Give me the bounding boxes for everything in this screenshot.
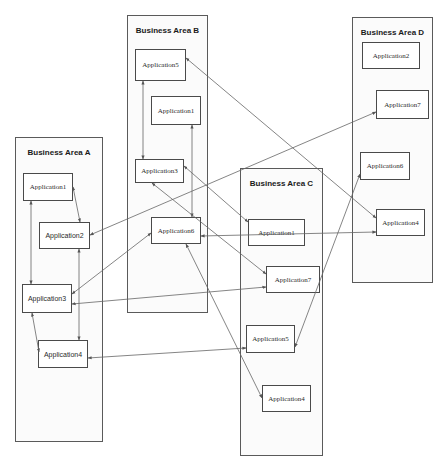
app-c-application5[interactable]: Application5 <box>246 325 295 353</box>
app-b-application5[interactable]: Application5 <box>135 49 186 81</box>
business-area-c: Business Area C <box>240 168 323 456</box>
app-a-application3[interactable]: Application3 <box>22 284 72 313</box>
app-a-application4[interactable]: Application4 <box>38 340 88 368</box>
business-area-a-title: Business Area A <box>16 148 102 157</box>
app-b-application3[interactable]: Application3 <box>135 159 184 183</box>
app-c-application7[interactable]: Application7 <box>266 266 320 293</box>
app-a-application2[interactable]: Application2 <box>39 222 90 249</box>
app-d-application7[interactable]: Application7 <box>376 90 429 119</box>
app-c-application4[interactable]: Application4 <box>262 385 311 412</box>
app-d-application4[interactable]: Application4 <box>376 209 425 236</box>
business-area-b-title: Business Area B <box>128 26 207 35</box>
app-d-application6[interactable]: Application6 <box>360 152 410 180</box>
link-a4-c5 <box>88 348 246 358</box>
app-d-application2[interactable]: Application2 <box>362 42 420 69</box>
app-b-application6[interactable]: Application6 <box>151 217 201 244</box>
business-area-c-title: Business Area C <box>241 179 322 188</box>
business-area-d-title: Business Area D <box>353 28 432 37</box>
app-c-application1[interactable]: Application1 <box>248 219 305 246</box>
app-b-application1[interactable]: Application1 <box>151 96 201 125</box>
app-a-application1[interactable]: Application1 <box>23 173 73 201</box>
